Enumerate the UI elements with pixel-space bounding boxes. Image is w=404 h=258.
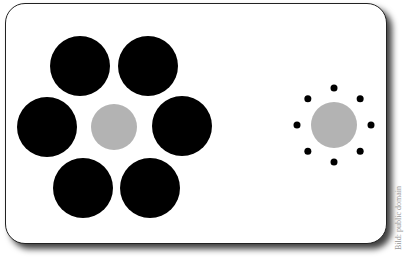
small-black-dot bbox=[357, 95, 364, 102]
small-black-dot bbox=[304, 95, 311, 102]
large-black-circle bbox=[50, 36, 110, 96]
large-black-circle bbox=[53, 158, 113, 218]
left-circle-group bbox=[17, 36, 212, 218]
right-center-gray-circle bbox=[311, 102, 357, 148]
small-black-dot bbox=[331, 85, 338, 92]
ebbinghaus-illusion bbox=[0, 0, 404, 258]
image-credit: Bild: public domain bbox=[394, 186, 403, 250]
small-black-dot bbox=[357, 148, 364, 155]
left-center-gray-circle bbox=[91, 104, 137, 150]
large-black-circle bbox=[118, 36, 178, 96]
right-circle-group bbox=[294, 85, 375, 166]
small-black-dot bbox=[368, 122, 375, 129]
large-black-circle bbox=[152, 96, 212, 156]
small-black-dot bbox=[304, 148, 311, 155]
large-black-circle bbox=[17, 97, 77, 157]
small-black-dot bbox=[331, 159, 338, 166]
large-black-circle bbox=[120, 158, 180, 218]
small-black-dot bbox=[294, 122, 301, 129]
